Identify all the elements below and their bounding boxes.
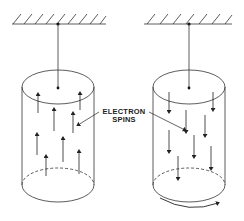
right-spin-arrows [169,92,213,179]
leader-line-left [78,112,99,125]
left-ceiling [12,14,106,24]
electron-spins-label: ELECTRON SPINS [98,108,150,124]
leader-line-right [149,112,185,130]
right-center-dot [188,87,191,90]
left-center-dot [57,87,60,90]
left-spin-arrows [37,93,80,176]
left-cylinder [22,70,94,202]
right-ceiling [144,14,232,24]
right-cylinder [153,70,225,202]
label-line-2: SPINS [98,116,150,124]
